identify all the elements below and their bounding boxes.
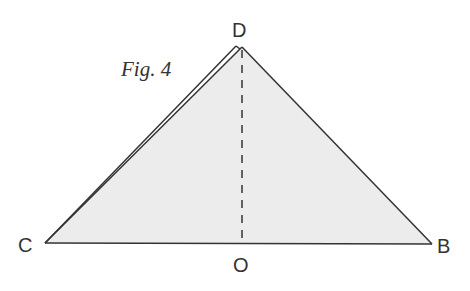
figure-canvas: D C B O Fig. 4 [0, 0, 470, 291]
figure-caption: Fig. 4 [121, 59, 171, 80]
label-o: O [233, 255, 249, 275]
label-d: D [232, 20, 246, 40]
triangle-diagram [0, 0, 470, 291]
edge-cb [45, 243, 432, 244]
label-c: C [18, 235, 32, 255]
triangle-fill [45, 47, 432, 244]
label-b: B [437, 236, 450, 256]
